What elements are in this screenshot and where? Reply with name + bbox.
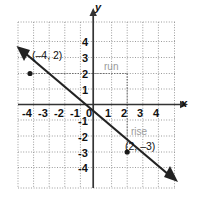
- coordinate-plane-figure: x y -4 -3 -2 -1 0 1 2 3 4 4 3 2 1 -1 -2 …: [0, 0, 199, 199]
- y-tick-label-4: 4: [82, 37, 88, 48]
- point-marker-minus4-2: [27, 71, 32, 76]
- y-tick-label-2: 2: [82, 69, 88, 80]
- x-tick-label-minus2: -2: [54, 108, 64, 119]
- x-tick-label-4: 4: [153, 108, 159, 119]
- x-axis-label: x: [181, 98, 187, 109]
- x-tick-label-minus3: -3: [38, 108, 48, 119]
- y-tick-label-3: 3: [82, 53, 88, 64]
- y-tick-label-minus3: -3: [78, 148, 88, 159]
- point-label-2-minus3: (2, –3): [125, 141, 155, 152]
- rise-label: rise: [131, 127, 147, 137]
- point-label-minus4-2: (–4, 2): [32, 50, 62, 61]
- y-tick-label-minus2: -2: [78, 132, 88, 143]
- run-label: run: [104, 62, 118, 72]
- y-axis-label: y: [95, 2, 101, 13]
- y-tick-label-minus4: -4: [78, 163, 88, 174]
- x-tick-label-3: 3: [137, 108, 143, 119]
- graph-canvas: [0, 0, 199, 199]
- x-tick-label-2: 2: [121, 108, 127, 119]
- y-tick-label-1: 1: [82, 85, 88, 96]
- x-tick-label-1: 1: [105, 108, 111, 119]
- x-tick-label-minus4: -4: [22, 108, 32, 119]
- y-tick-label-minus1: -1: [78, 116, 88, 127]
